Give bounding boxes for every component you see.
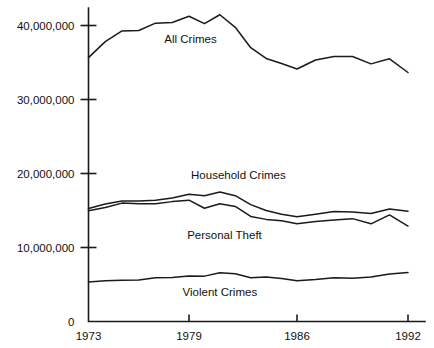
- y-tick-label: 40,000,000: [17, 20, 75, 32]
- x-axis-ticks: [189, 315, 408, 322]
- series-label-violent-crimes: Violent Crimes: [183, 286, 258, 298]
- y-tick-label: 30,000,000: [17, 94, 75, 106]
- x-axis-tick-labels: 1973197919861992: [76, 330, 421, 342]
- y-tick-label: 20,000,000: [17, 168, 75, 180]
- chart-axes: [81, 8, 426, 322]
- y-tick-label: 10,000,000: [17, 242, 75, 254]
- series-line-violent-crimes: [89, 273, 409, 282]
- x-tick-label: 1992: [395, 330, 421, 342]
- series-label-household-crimes: Household Crimes: [191, 169, 286, 181]
- series-label-personal-theft: Personal Theft: [187, 229, 262, 241]
- x-tick-label: 1979: [176, 330, 202, 342]
- y-tick-label: 0: [68, 316, 74, 328]
- data-series-group: [89, 15, 409, 282]
- x-tick-label: 1986: [284, 330, 310, 342]
- x-tick-label: 1973: [76, 330, 102, 342]
- chart-container: 010,000,00020,000,00030,000,00040,000,00…: [0, 0, 434, 348]
- y-axis-tick-labels: 010,000,00020,000,00030,000,00040,000,00…: [17, 20, 75, 328]
- axis-lines: [89, 8, 426, 322]
- series-labels-group: All CrimesHousehold CrimesPersonal Theft…: [164, 33, 286, 297]
- series-label-all-crimes: All Crimes: [164, 33, 217, 45]
- line-chart: 010,000,00020,000,00030,000,00040,000,00…: [0, 0, 434, 348]
- series-line-all-crimes: [89, 15, 409, 73]
